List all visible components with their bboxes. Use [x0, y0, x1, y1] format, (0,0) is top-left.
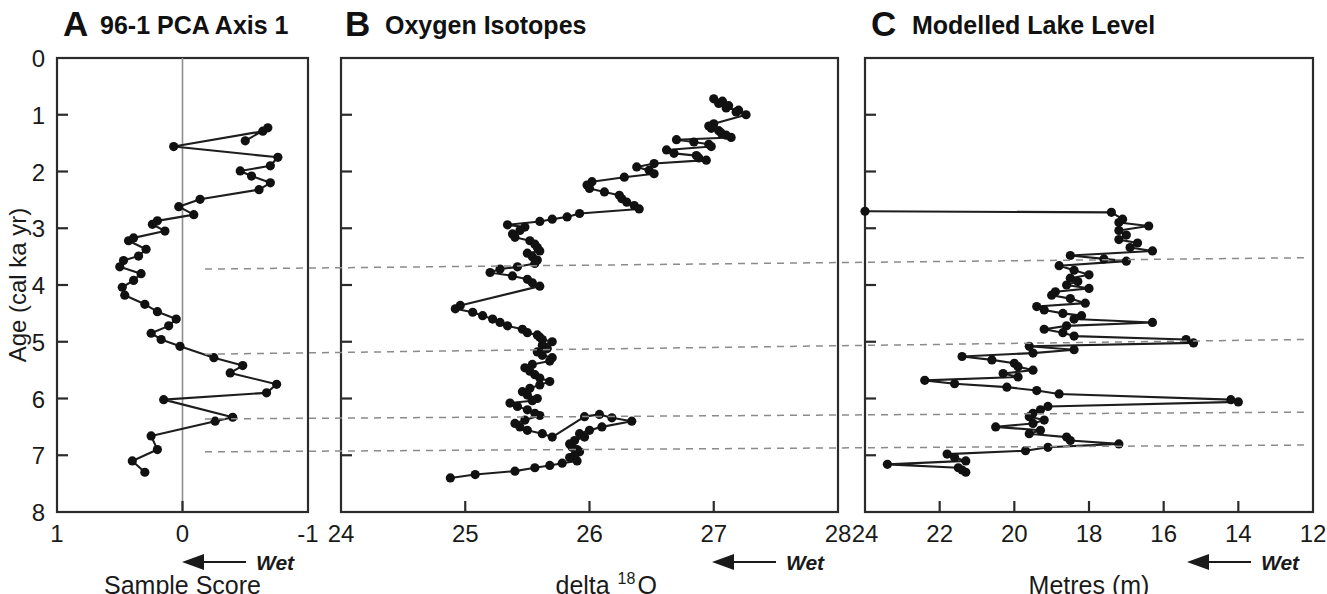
data-point	[128, 456, 137, 465]
data-point	[136, 269, 145, 278]
data-point	[669, 149, 678, 158]
data-point	[513, 402, 522, 411]
wet-direction-annotation-c: Wet	[1187, 551, 1300, 574]
data-point	[1058, 328, 1067, 337]
x-tick-label: 28	[825, 520, 852, 547]
data-point	[1025, 429, 1034, 438]
data-point	[228, 413, 237, 422]
multi-panel-chart: Age (cal ka yr)A96-1 PCA Axis 1012345678…	[0, 0, 1327, 594]
data-point	[164, 321, 173, 330]
data-point	[632, 162, 641, 171]
data-point	[727, 133, 736, 142]
data-point	[1047, 291, 1056, 300]
data-point	[597, 422, 606, 431]
panel-letter-a: A	[63, 4, 88, 43]
data-point	[1125, 243, 1134, 252]
data-point	[607, 413, 616, 422]
data-point	[1084, 270, 1093, 279]
x-tick-label: 12	[1300, 520, 1327, 547]
data-point	[1069, 266, 1078, 275]
data-point	[702, 156, 711, 165]
tie-line-3	[205, 412, 1305, 419]
figure-root: Age (cal ka yr)A96-1 PCA Axis 1012345678…	[0, 0, 1327, 594]
tie-line-4	[205, 445, 1305, 452]
panel-title-a: 96-1 PCA Axis 1	[100, 11, 289, 39]
data-point	[650, 169, 659, 178]
series-points-a	[115, 123, 282, 477]
data-point	[1002, 383, 1011, 392]
y-tick-label: 1	[32, 102, 45, 129]
data-point	[1144, 221, 1153, 230]
data-point	[1073, 277, 1082, 286]
data-point	[120, 291, 129, 300]
data-point	[707, 142, 716, 151]
data-point	[575, 209, 584, 218]
y-tick-label: 2	[32, 159, 45, 186]
y-tick-label: 8	[32, 499, 45, 526]
x-axis-title-a: Sample Score	[104, 571, 261, 594]
data-point	[247, 171, 256, 180]
data-point	[1084, 284, 1093, 293]
data-point	[950, 453, 959, 462]
data-point	[513, 262, 522, 271]
data-point	[563, 212, 572, 221]
x-axis-title-superscript: 18	[618, 570, 636, 587]
data-point	[1234, 397, 1243, 406]
data-point	[627, 417, 636, 426]
data-point	[523, 426, 532, 435]
y-tick-label: 7	[32, 442, 45, 469]
data-point	[1114, 235, 1123, 244]
data-point	[226, 368, 235, 377]
data-point	[134, 251, 143, 260]
data-point	[535, 411, 544, 420]
data-point	[159, 395, 168, 404]
data-point	[545, 356, 554, 365]
x-tick-label: 25	[452, 520, 479, 547]
data-point	[961, 456, 970, 465]
data-point	[1062, 280, 1071, 289]
data-point	[1107, 208, 1116, 217]
data-point	[572, 456, 581, 465]
data-point	[957, 352, 966, 361]
data-point	[1028, 419, 1037, 428]
data-point	[741, 110, 750, 119]
data-point	[1148, 246, 1157, 255]
correlation-lines	[205, 258, 1305, 452]
data-point	[535, 246, 544, 255]
data-point	[883, 460, 892, 469]
data-point	[508, 271, 517, 280]
data-point	[157, 335, 166, 344]
data-point	[1069, 314, 1078, 323]
data-point	[860, 207, 869, 216]
x-tick-label: 16	[1150, 520, 1177, 547]
data-point	[254, 185, 263, 194]
x-tick-label: 14	[1225, 520, 1252, 547]
x-axis-title-base: delta	[556, 571, 610, 594]
data-point	[950, 379, 959, 388]
data-point	[987, 355, 996, 364]
data-point	[503, 321, 512, 330]
data-point	[535, 380, 544, 389]
wet-arrow-head-icon	[712, 554, 734, 570]
data-point	[991, 422, 1000, 431]
data-point	[1081, 299, 1090, 308]
y-tick-label: 5	[32, 329, 45, 356]
data-point	[266, 161, 275, 170]
panel-title-b: Oxygen Isotopes	[385, 11, 586, 39]
data-point	[147, 329, 156, 338]
data-point	[140, 300, 149, 309]
x-axis-title-tail: O	[638, 571, 657, 594]
data-point	[258, 127, 267, 136]
data-point	[548, 215, 557, 224]
data-point	[510, 467, 519, 476]
data-point	[1122, 257, 1131, 266]
data-point	[1036, 426, 1045, 435]
panel-a: A96-1 PCA Axis 101234567810-1WetSample S…	[32, 4, 319, 594]
data-point	[538, 429, 547, 438]
data-point	[635, 204, 644, 213]
data-point	[140, 468, 149, 477]
data-point	[115, 262, 124, 271]
wet-label: Wet	[256, 551, 295, 574]
x-tick-label: 20	[1001, 520, 1028, 547]
data-point	[535, 217, 544, 226]
